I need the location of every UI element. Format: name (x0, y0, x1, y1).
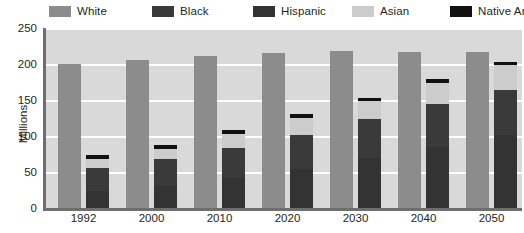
y-tick-label-0: 0 (31, 202, 37, 214)
bar-segment-hispanic-2020 (290, 169, 313, 208)
y-tick-label-250: 250 (18, 22, 37, 34)
y-axis: Millions 050100150200250 (0, 0, 42, 233)
bar-white-1992 (58, 64, 81, 208)
bar-white-2050 (466, 52, 489, 208)
y-tick-label-150: 150 (18, 94, 37, 106)
bar-segment-native-american-1992 (86, 155, 109, 159)
bar-white-2010 (194, 56, 217, 208)
x-tick-label-2050: 2050 (479, 212, 505, 224)
legend-swatch-hispanic-icon (253, 6, 275, 17)
x-tick-label-2020: 2020 (275, 212, 301, 224)
legend-item-native[interactable]: Native American, Eskimo, and Aleut (450, 0, 524, 22)
bar-group-1992 (58, 28, 109, 208)
bar-stacked-2020 (290, 114, 313, 208)
bar-stacked-2030 (358, 98, 381, 208)
legend-swatch-white-icon (49, 6, 71, 17)
bar-stacked-1992 (86, 155, 109, 208)
bar-group-2010 (194, 28, 245, 208)
bar-segment-asian-2000 (154, 149, 177, 159)
bar-segment-black-2050 (494, 90, 517, 135)
bar-segment-native-american-2000 (154, 145, 177, 149)
x-tick-label-1992: 1992 (71, 212, 97, 224)
chart-legend: WhiteBlackHispanicAsianNative American, … (0, 0, 524, 22)
bar-white-2020 (262, 53, 285, 208)
bar-segment-hispanic-1992 (86, 191, 109, 208)
legend-label-black: Black (180, 5, 209, 17)
y-tick-label-200: 200 (18, 58, 37, 70)
y-axis-title: Millions (17, 79, 29, 169)
bar-stacked-2000 (154, 145, 177, 208)
bar-group-2030 (330, 28, 381, 208)
legend-label-asian: Asian (380, 5, 409, 17)
legend-swatch-black-icon (152, 6, 174, 17)
bar-segment-hispanic-2050 (494, 135, 517, 208)
y-tick-label-100: 100 (18, 130, 37, 142)
bar-group-2000 (126, 28, 177, 208)
legend-label-native: Native American, Eskimo, and Aleut (478, 5, 524, 17)
legend-item-hispanic[interactable]: Hispanic (253, 0, 326, 22)
bar-segment-hispanic-2010 (222, 178, 245, 208)
bar-segment-hispanic-2040 (426, 147, 449, 208)
bar-stacked-2040 (426, 79, 449, 208)
legend-item-asian[interactable]: Asian (352, 0, 409, 22)
x-axis: 1992200020102020203020402050 (46, 212, 522, 232)
bar-segment-asian-2020 (290, 118, 313, 135)
legend-label-white: White (77, 5, 107, 17)
bar-segment-black-2020 (290, 135, 313, 170)
legend-swatch-native-icon (450, 6, 472, 17)
y-tick-label-50: 50 (24, 166, 37, 178)
bar-segment-black-1992 (86, 168, 109, 191)
bar-group-2040 (398, 28, 449, 208)
bar-segment-black-2030 (358, 119, 381, 158)
bar-segment-hispanic-2000 (154, 186, 177, 208)
x-tick-label-2030: 2030 (343, 212, 369, 224)
bar-group-2050 (466, 28, 517, 208)
bar-segment-asian-2050 (494, 65, 517, 90)
bar-segment-native-american-2030 (358, 98, 381, 102)
bar-segment-asian-2010 (222, 134, 245, 148)
x-tick-label-2000: 2000 (139, 212, 165, 224)
legend-item-white[interactable]: White (49, 0, 107, 22)
bar-segment-native-american-2020 (290, 114, 313, 118)
bar-segment-native-american-2040 (426, 79, 449, 83)
y-axis-line (43, 28, 46, 211)
bar-segment-black-2010 (222, 148, 245, 178)
bar-segment-black-2040 (426, 104, 449, 146)
x-tick-label-2040: 2040 (411, 212, 437, 224)
bar-segment-asian-1992 (86, 159, 109, 168)
bar-white-2000 (126, 60, 149, 208)
bar-white-2030 (330, 51, 353, 208)
bar-group-2020 (262, 28, 313, 208)
bar-segment-native-american-2010 (222, 130, 245, 134)
legend-swatch-asian-icon (352, 6, 374, 17)
population-projection-chart: WhiteBlackHispanicAsianNative American, … (0, 0, 524, 233)
bar-stacked-2010 (222, 130, 245, 208)
legend-item-black[interactable]: Black (152, 0, 209, 22)
legend-label-hispanic: Hispanic (281, 5, 326, 17)
bar-segment-asian-2040 (426, 83, 449, 105)
bar-segment-native-american-2050 (494, 62, 517, 65)
plot-area (46, 28, 522, 208)
x-axis-line (46, 208, 522, 211)
bar-segment-hispanic-2030 (358, 158, 381, 208)
bar-segment-asian-2030 (358, 101, 381, 119)
bar-white-2040 (398, 52, 421, 208)
x-tick-label-2010: 2010 (207, 212, 233, 224)
bar-stacked-2050 (494, 62, 517, 208)
bar-segment-black-2000 (154, 159, 177, 186)
